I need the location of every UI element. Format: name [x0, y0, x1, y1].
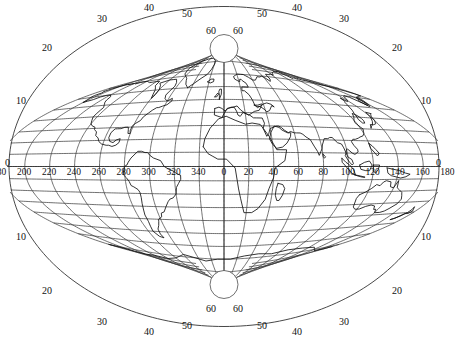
latitude-label-upperright-20: 20	[392, 43, 402, 53]
longitude-label-20-10: 20	[244, 168, 254, 178]
longitude-label-40-11: 40	[269, 168, 279, 178]
longitude-label-140-16: 140	[391, 168, 405, 178]
latitude-label-left-10-n: 10	[16, 96, 26, 106]
longitude-label-200-1: 200	[17, 168, 31, 178]
latitude-label-top-60-right: 60	[233, 26, 243, 36]
latitude-label-top-60-left: 60	[206, 26, 216, 36]
longitude-label-0-9: 0	[221, 168, 226, 178]
latitude-label-bottom-40-left: 40	[144, 327, 154, 337]
longitude-label-100-14: 100	[341, 168, 355, 178]
latitude-label-top-50-left: 50	[182, 9, 192, 19]
longitude-label-220-2: 220	[42, 168, 56, 178]
latitude-label-bottom-30-right: 30	[339, 317, 349, 327]
latitude-label-top-50-right: 50	[257, 9, 267, 19]
longitude-label-340-8: 340	[191, 168, 205, 178]
latitude-label-bottom-60-left: 60	[206, 304, 216, 314]
latitude-label-left-10-s: 10	[16, 232, 26, 242]
longitude-label-180-18: 180	[440, 168, 454, 178]
latitude-label-top-40-left: 40	[144, 3, 154, 13]
latitude-label-bottom-30-left: 30	[97, 317, 107, 327]
latitude-label-bottom-40-right: 40	[292, 327, 302, 337]
longitude-label-120-15: 120	[366, 168, 380, 178]
longitude-label-240-3: 240	[67, 168, 81, 178]
south-pole-hole	[210, 271, 238, 299]
latitude-label-upperleft-20: 20	[42, 43, 52, 53]
longitude-label-280-5: 280	[117, 168, 131, 178]
latitude-label-top-30-left: 30	[97, 14, 107, 24]
longitude-label-180-0: 180	[0, 168, 6, 178]
latitude-label-bottom-60-right: 60	[233, 304, 243, 314]
longitude-label-260-4: 260	[92, 168, 106, 178]
latitude-label-top-30-right: 30	[339, 14, 349, 24]
longitude-label-60-12: 60	[294, 168, 304, 178]
longitude-label-320-7: 320	[166, 168, 180, 178]
latitude-label-bottom-50-left: 50	[182, 321, 192, 331]
latitude-label-left-0: 0	[5, 158, 10, 168]
latitude-label-top-40-right: 40	[292, 3, 302, 13]
longitude-label-80-13: 80	[318, 168, 328, 178]
north-pole-hole	[210, 35, 238, 63]
latitude-label-lowerright-20: 20	[392, 286, 402, 296]
latitude-label-bottom-50-right: 50	[257, 321, 267, 331]
latitude-label-right-10-n: 10	[421, 96, 431, 106]
latitude-label-right-10-s: 10	[421, 232, 431, 242]
longitude-label-300-6: 300	[142, 168, 156, 178]
longitude-label-160-17: 160	[415, 168, 429, 178]
latitude-label-right-0: 0	[436, 158, 441, 168]
latitude-label-lowerleft-20: 20	[42, 286, 52, 296]
